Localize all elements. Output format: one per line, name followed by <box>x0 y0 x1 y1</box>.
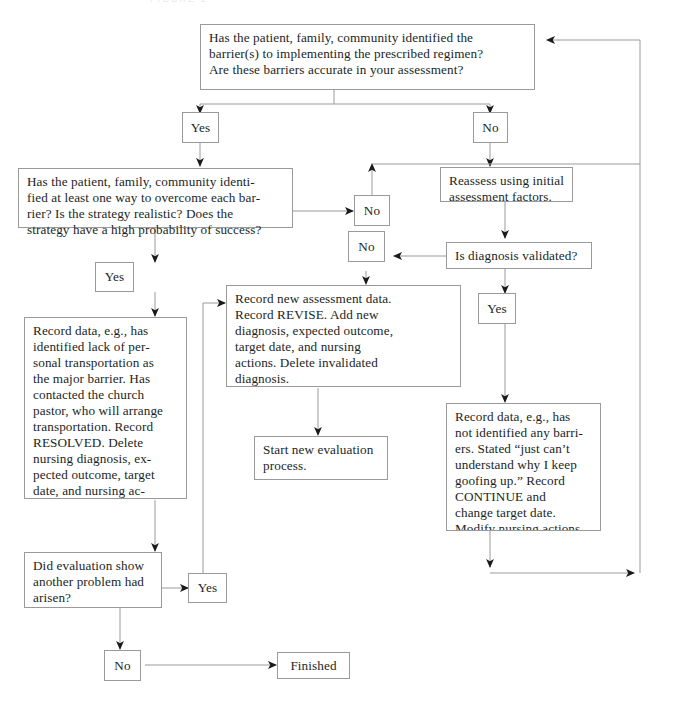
node-label: Finished <box>290 658 336 674</box>
node-label: Yes <box>198 580 218 596</box>
node-label: Record data, e.g., has identified lack o… <box>33 323 179 499</box>
node-record-resolved[interactable]: Record data, e.g., has identified lack o… <box>24 317 187 499</box>
node-question-strategy[interactable]: Has the patient, family, community ident… <box>18 168 293 228</box>
node-no-diagnosis-validated[interactable]: No <box>348 231 385 262</box>
node-no-another-problem[interactable]: No <box>104 650 141 681</box>
node-label: No <box>114 658 130 674</box>
node-start-new-evaluation[interactable]: Start new evaluation process. <box>254 436 388 480</box>
node-question-another-problem[interactable]: Did evaluation show another problem had … <box>24 552 162 608</box>
figure-caption-fragment: FIGURE 1 <box>150 0 208 4</box>
flowchart-canvas: FIGURE 1 <box>0 0 681 705</box>
node-label: Record data, e.g., has not identified an… <box>455 409 593 531</box>
node-label: No <box>482 120 498 136</box>
node-label: Yes <box>191 120 211 136</box>
node-yes-another-problem[interactable]: Yes <box>188 573 227 603</box>
node-no-barriers-identified[interactable]: No <box>473 112 508 143</box>
node-label: Record new assessment data. Record REVIS… <box>235 291 453 387</box>
node-record-revise[interactable]: Record new assessment data. Record REVIS… <box>226 285 461 387</box>
node-label: Is diagnosis validated? <box>455 248 577 264</box>
node-yes-barriers-identified[interactable]: Yes <box>182 112 219 143</box>
node-label: Reassess using initial assessment factor… <box>449 173 565 205</box>
node-no-strategy[interactable]: No <box>354 195 390 226</box>
node-label: Did evaluation show another problem had … <box>33 558 154 606</box>
node-question-barriers-identified[interactable]: Has the patient, family, community ident… <box>200 24 535 90</box>
node-record-continue[interactable]: Record data, e.g., has not identified an… <box>446 403 601 531</box>
node-label: Has the patient, family, community ident… <box>209 30 527 78</box>
node-reassess-initial-factors[interactable]: Reassess using initial assessment factor… <box>440 167 573 202</box>
node-label: Has the patient, family, community ident… <box>27 174 285 238</box>
node-finished[interactable]: Finished <box>277 652 350 679</box>
node-label: Yes <box>105 269 125 285</box>
node-label: Start new evaluation process. <box>263 442 380 474</box>
node-yes-strategy[interactable]: Yes <box>95 262 134 292</box>
node-label: Yes <box>487 301 507 317</box>
node-label: No <box>358 239 374 255</box>
node-yes-diagnosis-validated[interactable]: Yes <box>478 293 516 324</box>
node-label: No <box>364 203 380 219</box>
node-question-diagnosis-validated[interactable]: Is diagnosis validated? <box>446 242 592 269</box>
